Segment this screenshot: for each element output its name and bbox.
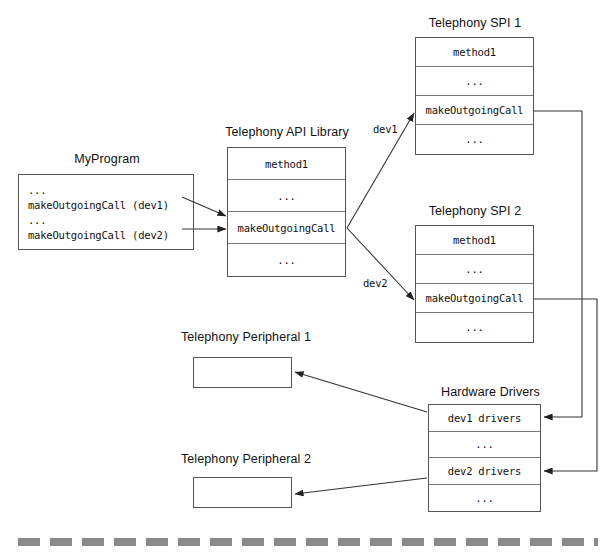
hardware-drivers-row-3[interactable]: ... xyxy=(429,485,540,511)
api-library-row-3[interactable]: ... xyxy=(228,244,345,276)
spi-2-row-1[interactable]: ... xyxy=(416,255,533,284)
peripheral-1-box[interactable] xyxy=(193,357,292,388)
my-program-box[interactable]: ... makeOutgoingCall (dev1) ... makeOutg… xyxy=(18,174,194,250)
hardware-drivers-row-1[interactable]: ... xyxy=(429,432,540,459)
my-program-caption: MyProgram xyxy=(22,152,192,166)
spi-1-box[interactable]: method1 ... makeOutgoingCall ... xyxy=(415,37,534,155)
api-library-caption: Telephony API Library xyxy=(222,125,352,139)
spi-1-caption: Telephony SPI 1 xyxy=(415,16,535,30)
spi-1-row-0[interactable]: method1 xyxy=(416,38,533,67)
bottom-dashed-rule xyxy=(18,538,598,546)
spi-2-row-3[interactable]: ... xyxy=(416,313,533,342)
api-library-row-2[interactable]: makeOutgoingCall xyxy=(228,212,345,244)
peripheral-2-box[interactable] xyxy=(193,477,292,508)
edge-dev2-drivers-to-peripheral2 xyxy=(295,478,427,494)
spi-2-box[interactable]: method1 ... makeOutgoingCall ... xyxy=(415,225,534,343)
hardware-drivers-row-0[interactable]: dev1 drivers xyxy=(429,405,540,432)
my-program-line-3: makeOutgoingCall (dev2) xyxy=(28,228,193,243)
spi-1-row-1[interactable]: ... xyxy=(416,67,533,96)
spi-1-row-2[interactable]: makeOutgoingCall xyxy=(416,96,533,125)
my-program-line-2: ... xyxy=(28,213,193,228)
peripheral-1-caption: Telephony Peripheral 1 xyxy=(171,330,321,344)
edge-label-dev2: dev2 xyxy=(363,277,388,289)
api-library-row-0[interactable]: method1 xyxy=(228,148,345,180)
edge-label-dev1: dev1 xyxy=(373,123,398,135)
peripheral-2-caption: Telephony Peripheral 2 xyxy=(171,452,321,466)
spi-2-caption: Telephony SPI 2 xyxy=(415,204,535,218)
hardware-drivers-box[interactable]: dev1 drivers ... dev2 drivers ... xyxy=(428,404,541,512)
spi-2-row-2[interactable]: makeOutgoingCall xyxy=(416,284,533,313)
edge-spi1-to-dev1-drivers xyxy=(534,111,582,417)
api-library-box[interactable]: method1 ... makeOutgoingCall ... xyxy=(227,147,346,277)
hardware-drivers-row-2[interactable]: dev2 drivers xyxy=(429,458,540,485)
api-library-row-1[interactable]: ... xyxy=(228,180,345,212)
edge-api-to-spi2 xyxy=(347,228,414,300)
edge-dev1-drivers-to-peripheral1 xyxy=(295,372,427,412)
spi-2-row-0[interactable]: method1 xyxy=(416,226,533,255)
my-program-line-0: ... xyxy=(28,183,193,198)
my-program-line-1: makeOutgoingCall (dev1) xyxy=(28,198,193,213)
hardware-drivers-caption: Hardware Drivers xyxy=(428,385,553,399)
spi-1-row-3[interactable]: ... xyxy=(416,125,533,154)
diagram-canvas: MyProgram ... makeOutgoingCall (dev1) ..… xyxy=(0,0,614,554)
